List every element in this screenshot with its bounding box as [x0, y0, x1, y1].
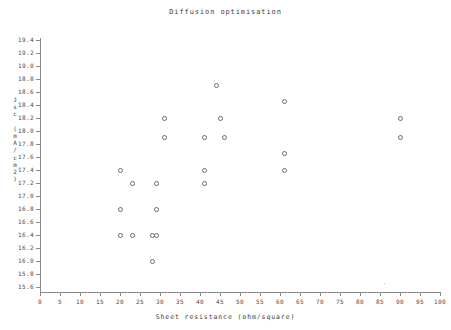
x-axis-tick: [120, 292, 121, 296]
data-point: [202, 181, 207, 186]
y-axis-tick: [36, 144, 41, 145]
y-axis-tick-label: 16.0: [4, 257, 34, 264]
x-axis-tick: [100, 292, 101, 296]
y-axis-tick: [36, 118, 41, 119]
x-axis-tick: [360, 292, 361, 296]
y-axis-tick-label: 17.2: [4, 179, 34, 186]
data-point: [162, 135, 167, 140]
y-axis-tick: [36, 183, 41, 184]
x-axis-tick: [60, 292, 61, 296]
y-axis-tick: [36, 170, 41, 171]
data-point: [218, 116, 223, 121]
x-axis-tick: [40, 292, 41, 296]
x-axis-tick-label: 20: [109, 298, 131, 305]
data-point: [150, 259, 155, 264]
data-point: [154, 181, 159, 186]
x-axis-tick-label: 60: [269, 298, 291, 305]
x-axis-tick-label: 15: [89, 298, 111, 305]
plot-area: [40, 38, 440, 292]
y-axis-tick-label: 19.4: [4, 36, 34, 43]
data-point: [130, 181, 135, 186]
stray-speck: [384, 283, 385, 284]
y-axis-tick-label: 15.8: [4, 270, 34, 277]
y-axis-tick-label: 17.8: [4, 140, 34, 147]
y-axis-tick-label: 18.0: [4, 127, 34, 134]
x-axis-tick: [300, 292, 301, 296]
y-axis-tick-label: 17.6: [4, 153, 34, 160]
data-point: [118, 233, 123, 238]
y-axis-tick-label: 18.8: [4, 75, 34, 82]
y-axis-tick-label: 15.6: [4, 283, 34, 290]
x-axis-tick-label: 65: [289, 298, 311, 305]
y-axis-tick: [36, 131, 41, 132]
x-axis-tick: [340, 292, 341, 296]
x-axis-tick-label: 75: [329, 298, 351, 305]
x-axis-tick: [200, 292, 201, 296]
y-axis-tick: [36, 235, 41, 236]
x-axis-tick-label: 30: [149, 298, 171, 305]
x-axis-tick-label: 0: [29, 298, 51, 305]
y-axis-tick: [36, 40, 41, 41]
y-axis-tick: [36, 157, 41, 158]
y-axis-tick-label: 17.4: [4, 166, 34, 173]
data-point: [282, 168, 287, 173]
x-axis-tick-label: 70: [309, 298, 331, 305]
x-axis-tick: [400, 292, 401, 296]
y-axis-tick-label: 17.0: [4, 192, 34, 199]
y-axis-tick-label: 18.6: [4, 88, 34, 95]
y-axis-tick: [36, 53, 41, 54]
data-point: [222, 135, 227, 140]
x-axis-tick: [180, 292, 181, 296]
data-point: [202, 135, 207, 140]
x-axis-tick-label: 5: [49, 298, 71, 305]
scatter-plot-figure: Diffusion optimisation Jsc (mA/cm2) Shee…: [0, 0, 451, 330]
y-axis-tick: [36, 248, 41, 249]
x-axis-tick-label: 10: [69, 298, 91, 305]
y-axis-tick: [36, 105, 41, 106]
x-axis-label: Sheet resistance (ohm/square): [0, 313, 451, 321]
y-axis-tick: [36, 261, 41, 262]
y-axis-tick-label: 16.2: [4, 244, 34, 251]
data-point: [154, 233, 159, 238]
x-axis-tick-label: 95: [409, 298, 431, 305]
x-axis-tick-label: 50: [229, 298, 251, 305]
data-point: [282, 99, 287, 104]
data-point: [118, 207, 123, 212]
x-axis-tick: [420, 292, 421, 296]
data-point: [130, 233, 135, 238]
y-axis-tick-label: 19.0: [4, 62, 34, 69]
x-axis-tick: [220, 292, 221, 296]
x-axis-tick: [380, 292, 381, 296]
data-point: [118, 168, 123, 173]
x-axis-tick-label: 80: [349, 298, 371, 305]
y-axis-tick: [36, 66, 41, 67]
data-point: [154, 207, 159, 212]
x-axis-tick-label: 25: [129, 298, 151, 305]
x-axis-tick-label: 35: [169, 298, 191, 305]
data-point: [162, 116, 167, 121]
x-axis-tick: [240, 292, 241, 296]
data-point: [398, 135, 403, 140]
y-axis-tick-label: 18.4: [4, 101, 34, 108]
x-axis-tick: [80, 292, 81, 296]
data-point: [202, 168, 207, 173]
x-axis-tick-label: 85: [369, 298, 391, 305]
x-axis-tick: [440, 292, 441, 296]
data-point: [398, 116, 403, 121]
y-axis-tick-label: 19.2: [4, 49, 34, 56]
x-axis-tick: [140, 292, 141, 296]
data-point: [214, 83, 219, 88]
y-axis-tick: [36, 222, 41, 223]
y-axis-tick: [36, 287, 41, 288]
x-axis-tick-label: 40: [189, 298, 211, 305]
data-point: [282, 151, 287, 156]
x-axis-tick-label: 55: [249, 298, 271, 305]
x-axis-tick-label: 90: [389, 298, 411, 305]
y-axis-tick-label: 16.4: [4, 231, 34, 238]
x-axis-tick-label: 100: [429, 298, 451, 305]
x-axis-tick-label: 45: [209, 298, 231, 305]
y-axis-tick: [36, 92, 41, 93]
y-axis-tick: [36, 209, 41, 210]
x-axis-tick: [260, 292, 261, 296]
y-axis-tick: [36, 274, 41, 275]
